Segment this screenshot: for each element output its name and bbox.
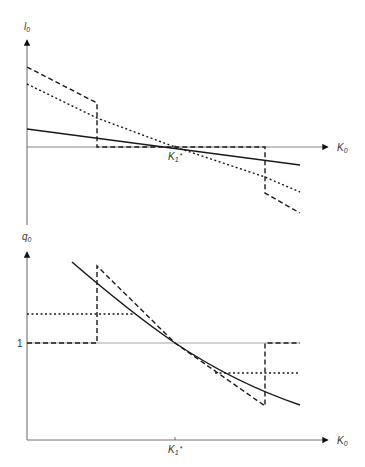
top-k1-star-label: K1* — [168, 151, 183, 163]
bottom-one-tick-label: 1 — [17, 338, 23, 349]
top-dotted-series — [27, 84, 300, 192]
bottom-panel: q0 1 K0 K1* — [17, 231, 348, 456]
top-panel: l0 K0 K1* — [24, 21, 348, 225]
bottom-x-axis-label: K0 — [337, 435, 348, 447]
top-y-axis-label: l0 — [24, 21, 30, 33]
bottom-dashed-series — [27, 266, 300, 406]
bottom-k1-star-label: K1* — [168, 444, 183, 456]
bottom-y-axis-label: q0 — [22, 231, 32, 243]
top-x-axis-label: K0 — [337, 142, 348, 154]
bottom-solid-curve — [72, 262, 300, 405]
top-dashed-series — [27, 67, 300, 213]
diagram-canvas: l0 K0 K1* q0 1 K0 K1* — [0, 0, 365, 467]
